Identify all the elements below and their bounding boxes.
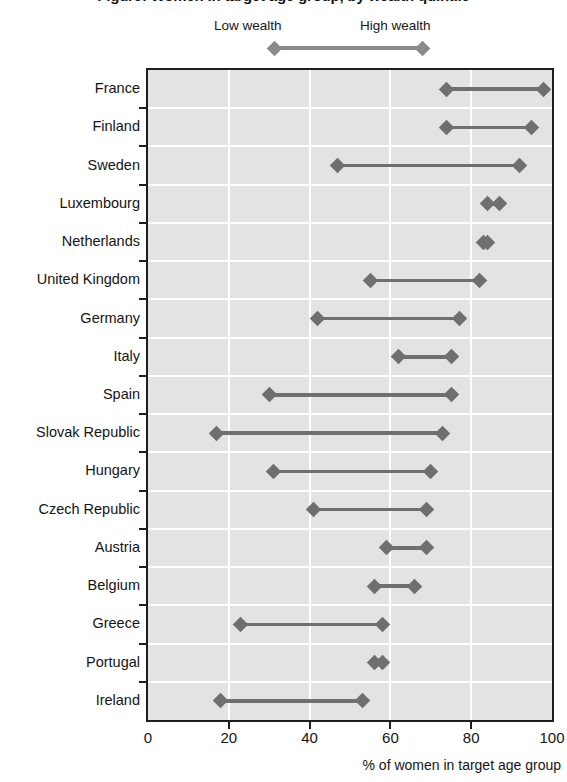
- dumbbell-marker-high-wealth[interactable]: [443, 387, 459, 403]
- x-axis-tick: [470, 722, 472, 729]
- dumbbell-marker-high-wealth[interactable]: [471, 273, 487, 289]
- dumbbell-marker-low-wealth[interactable]: [209, 425, 225, 441]
- dumbbell-connector: [217, 431, 443, 435]
- y-axis-label: Germany: [0, 310, 140, 326]
- page-title: Figure: Women in target age group, by we…: [0, 0, 567, 5]
- dumbbell-marker-low-wealth[interactable]: [233, 617, 249, 633]
- dumbbell-row[interactable]: [148, 185, 552, 223]
- dumbbell-row[interactable]: [148, 108, 552, 146]
- dumbbell-marker-high-wealth[interactable]: [524, 120, 540, 136]
- y-axis-label: Finland: [0, 118, 140, 134]
- dumbbell-connector: [447, 87, 544, 91]
- legend-label-low-wealth: Low wealth: [214, 18, 282, 33]
- dumbbell-row[interactable]: [148, 299, 552, 337]
- dumbbell-row[interactable]: [148, 491, 552, 529]
- dumbbell-connector: [370, 279, 479, 283]
- x-axis-tick-label: 100: [539, 729, 564, 746]
- x-axis-tick: [389, 722, 391, 729]
- dumbbell-marker-low-wealth[interactable]: [366, 578, 382, 594]
- dumbbell-row[interactable]: [148, 146, 552, 184]
- dumbbell-marker-high-wealth[interactable]: [536, 81, 552, 97]
- legend-connector-line: [274, 46, 422, 50]
- dumbbell-marker-low-wealth[interactable]: [261, 387, 277, 403]
- dumbbell-marker-low-wealth[interactable]: [362, 273, 378, 289]
- x-axis-tick: [309, 722, 311, 729]
- y-axis-label: Ireland: [0, 692, 140, 708]
- dumbbell-marker-high-wealth[interactable]: [375, 617, 391, 633]
- dumbbell-marker-low-wealth[interactable]: [439, 81, 455, 97]
- legend-diamond-low-wealth: [266, 40, 282, 56]
- y-axis-labels: FranceFinlandSwedenLuxembourgNetherlands…: [0, 68, 140, 722]
- dumbbell-row[interactable]: [148, 567, 552, 605]
- dumbbell-connector: [241, 623, 382, 627]
- y-axis-label: France: [0, 80, 140, 96]
- dumbbell-marker-high-wealth[interactable]: [435, 425, 451, 441]
- dumbbell-marker-high-wealth[interactable]: [354, 693, 370, 709]
- y-axis-label: Netherlands: [0, 233, 140, 249]
- dumbbell-row[interactable]: [148, 414, 552, 452]
- x-axis-tick-labels: 020406080100: [0, 729, 567, 751]
- dumbbell-marker-high-wealth[interactable]: [419, 502, 435, 518]
- x-axis-title: % of women in target age group: [363, 757, 561, 773]
- dumbbell-marker-high-wealth[interactable]: [512, 158, 528, 174]
- y-axis-label: Hungary: [0, 462, 140, 478]
- y-axis-label: Portugal: [0, 654, 140, 670]
- dumbbell-connector: [447, 126, 532, 130]
- x-axis-tick-label: 40: [301, 729, 318, 746]
- x-axis-tick: [228, 722, 230, 729]
- dumbbell-marker-low-wealth[interactable]: [265, 464, 281, 480]
- dumbbell-marker-high-wealth[interactable]: [443, 349, 459, 365]
- y-axis-label: Czech Republic: [0, 501, 140, 517]
- dumbbell-connector: [338, 164, 520, 168]
- y-axis-label: Slovak Republic: [0, 424, 140, 440]
- dumbbell-marker-high-wealth[interactable]: [419, 540, 435, 556]
- dumbbell-row[interactable]: [148, 338, 552, 376]
- dumbbell-connector: [269, 393, 451, 397]
- dumbbell-connector: [273, 470, 431, 474]
- dumbbell-connector: [314, 508, 427, 512]
- dumbbell-marker-low-wealth[interactable]: [213, 693, 229, 709]
- dumbbell-row[interactable]: [148, 605, 552, 643]
- dumbbell-marker-high-wealth[interactable]: [451, 311, 467, 327]
- y-axis-label: United Kingdom: [0, 271, 140, 287]
- y-axis-label: Austria: [0, 539, 140, 555]
- dumbbell-marker-low-wealth[interactable]: [439, 120, 455, 136]
- dumbbell-marker-high-wealth[interactable]: [492, 196, 508, 212]
- dumbbell-row[interactable]: [148, 529, 552, 567]
- x-axis-tick-label: 80: [463, 729, 480, 746]
- x-axis-tick-label: 0: [144, 729, 152, 746]
- legend-diamond-high-wealth: [414, 40, 430, 56]
- dumbbell-row[interactable]: [148, 682, 552, 720]
- y-axis-label: Italy: [0, 348, 140, 364]
- dumbbell-row[interactable]: [148, 70, 552, 108]
- dumbbell-row[interactable]: [148, 223, 552, 261]
- dumbbell-row[interactable]: [148, 261, 552, 299]
- plot-area: [146, 68, 554, 722]
- dumbbell-marker-high-wealth[interactable]: [407, 578, 423, 594]
- y-axis-label: Luxembourg: [0, 195, 140, 211]
- dumbbell-marker-high-wealth[interactable]: [423, 464, 439, 480]
- chart-legend: Low wealth High wealth: [210, 18, 490, 62]
- y-axis-label: Greece: [0, 615, 140, 631]
- dumbbell-row[interactable]: [148, 376, 552, 414]
- dumbbell-row[interactable]: [148, 644, 552, 682]
- y-axis-label: Belgium: [0, 577, 140, 593]
- x-axis-tick-label: 60: [382, 729, 399, 746]
- x-axis-tick-label: 20: [220, 729, 237, 746]
- dumbbell-connector: [221, 699, 362, 703]
- dumbbell-marker-low-wealth[interactable]: [310, 311, 326, 327]
- dumbbell-marker-low-wealth[interactable]: [379, 540, 395, 556]
- y-axis-label: Spain: [0, 386, 140, 402]
- legend-label-high-wealth: High wealth: [360, 18, 431, 33]
- dumbbell-row[interactable]: [148, 452, 552, 490]
- dumbbell-marker-low-wealth[interactable]: [330, 158, 346, 174]
- dumbbell-marker-low-wealth[interactable]: [306, 502, 322, 518]
- y-axis-label: Sweden: [0, 157, 140, 173]
- legend-labels: Low wealth High wealth: [210, 18, 490, 38]
- dumbbell-marker-low-wealth[interactable]: [391, 349, 407, 365]
- dumbbell-connector: [318, 317, 459, 321]
